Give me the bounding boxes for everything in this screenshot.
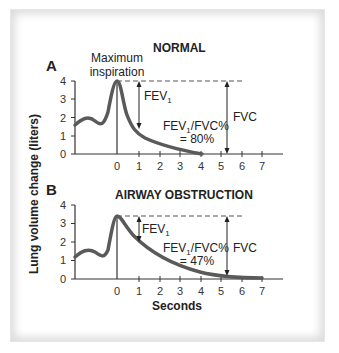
xtick-b-6: 6 [239, 285, 245, 297]
ytick-b-2: 2 [60, 236, 66, 248]
ytick-3: 3 [60, 93, 66, 105]
ytick-1: 1 [60, 130, 66, 142]
xtick-b-4: 4 [198, 285, 204, 297]
xtick-a-5: 5 [218, 160, 224, 172]
xtick-b-1: 1 [136, 285, 142, 297]
ytick-b-1: 1 [60, 254, 66, 266]
x-axis-label: Seconds [152, 299, 202, 313]
xtick-a-1: 1 [136, 160, 142, 172]
xtick-b-5: 5 [218, 285, 224, 297]
ytick-b-3: 3 [60, 217, 66, 229]
peak-label-line1: Maximum [91, 51, 143, 65]
panel-label-b: B [46, 181, 57, 198]
ratio-value-a: = 80% [180, 132, 215, 146]
xtick-a-6: 6 [239, 160, 245, 172]
spirometry-figure: Lung volume change (liters) NORMAL A Max… [0, 0, 339, 353]
fvc-label-b: FVC [233, 241, 257, 255]
y-axis-label: Lung volume change (liters) [27, 114, 41, 274]
ytick-b-0: 0 [60, 273, 66, 285]
xtick-a-2: 2 [157, 160, 163, 172]
peak-label-line2: inspiration [90, 65, 145, 79]
xtick-b-7: 7 [259, 285, 265, 297]
fvc-label-a: FVC [233, 110, 257, 124]
ratio-value-b: = 47% [180, 254, 215, 268]
fev1-label-a: FEV1 [144, 89, 172, 105]
title-airway-obstruction: AIRWAY OBSTRUCTION [115, 188, 253, 202]
xtick-a-3: 3 [177, 160, 183, 172]
xtick-a-4: 4 [198, 160, 204, 172]
fev1-label-b: FEV1 [142, 222, 170, 238]
panel-a: NORMAL A Maximum inspiration 4 3 2 1 0 0… [46, 41, 283, 172]
xtick-b-0: 0 [114, 285, 120, 297]
xtick-b-2: 2 [157, 285, 163, 297]
ytick-b-4: 4 [60, 199, 66, 211]
xtick-a-0: 0 [114, 160, 120, 172]
xtick-b-3: 3 [177, 285, 183, 297]
xtick-a-7: 7 [259, 160, 265, 172]
panel-b: B AIRWAY OBSTRUCTION 4 3 2 1 0 0 1 2 3 4… [46, 181, 283, 297]
ytick-2: 2 [60, 112, 66, 124]
ytick-0: 0 [60, 148, 66, 160]
panel-label-a: A [46, 57, 57, 74]
title-normal: NORMAL [153, 41, 206, 55]
ytick-4: 4 [60, 75, 66, 87]
